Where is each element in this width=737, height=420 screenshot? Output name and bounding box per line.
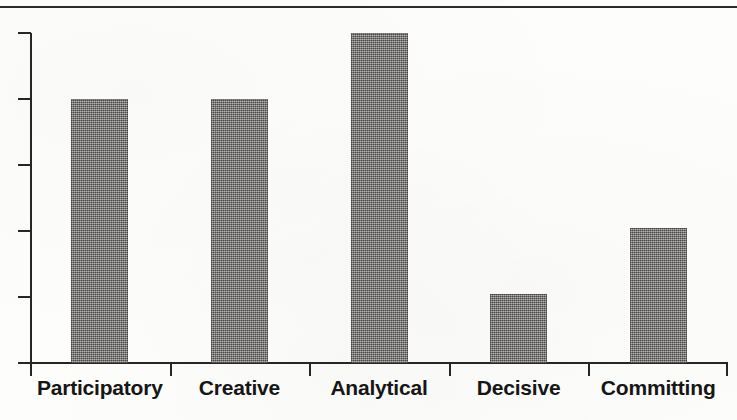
page-top-rule — [0, 6, 737, 8]
bar-committing[interactable] — [630, 228, 687, 363]
x-axis-label-committing: Committing — [588, 376, 728, 400]
bar-participatory[interactable] — [71, 99, 128, 363]
x-axis-tick-2 — [309, 364, 311, 376]
x-axis-label-creative: Creative — [170, 376, 310, 400]
x-axis-label-analytical: Analytical — [309, 376, 449, 400]
bar-decisive[interactable] — [490, 294, 547, 363]
x-axis-tick-5 — [726, 364, 728, 376]
x-axis-tick-1 — [170, 364, 172, 376]
x-axis-tick-0 — [30, 364, 32, 376]
bar-creative[interactable] — [211, 99, 268, 363]
x-axis-tick-4 — [588, 364, 590, 376]
bar-analytical[interactable] — [351, 33, 408, 363]
x-axis-label-decisive: Decisive — [449, 376, 589, 400]
x-axis-tick-3 — [449, 364, 451, 376]
plot-area — [30, 33, 728, 363]
x-axis-label-participatory: Participatory — [30, 376, 170, 400]
bar-chart-figure: ParticipatoryCreativeAnalyticalDecisiveC… — [0, 0, 737, 420]
